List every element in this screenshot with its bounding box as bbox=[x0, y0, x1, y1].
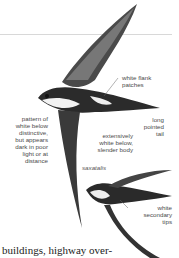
label-line: tail bbox=[136, 130, 164, 137]
label-line: white bbox=[138, 204, 172, 211]
label-white-flank-patches: white flank patches bbox=[122, 74, 151, 88]
label-line: extensively bbox=[88, 132, 133, 139]
label-line: pattern of bbox=[2, 115, 48, 122]
label-subspecies: saxatalis bbox=[82, 164, 106, 171]
label-line: secondary bbox=[138, 211, 172, 218]
label-line: white below, bbox=[88, 139, 133, 146]
label-pattern-white-below: pattern of white below distinctive, but … bbox=[2, 115, 48, 164]
label-line: light or at bbox=[2, 150, 48, 157]
label-line: long bbox=[136, 116, 164, 123]
label-line: white below bbox=[2, 122, 48, 129]
label-line: white flank bbox=[122, 74, 151, 81]
label-line: distinctive, bbox=[2, 129, 48, 136]
label-white-secondary-tips: white secondary tips bbox=[138, 204, 172, 225]
label-line: tips bbox=[138, 218, 172, 225]
body-text: buildings, highway over- bbox=[2, 244, 112, 256]
label-line: pointed bbox=[136, 123, 164, 130]
label-line: but appears bbox=[2, 136, 48, 143]
label-line: slender body bbox=[88, 146, 133, 153]
label-line: patches bbox=[122, 81, 151, 88]
label-extensively-white-below: extensively white below, slender body bbox=[88, 132, 133, 153]
label-line: distance bbox=[2, 157, 48, 164]
label-long-pointed-tail: long pointed tail bbox=[136, 116, 164, 137]
label-line: dark in poor bbox=[2, 143, 48, 150]
